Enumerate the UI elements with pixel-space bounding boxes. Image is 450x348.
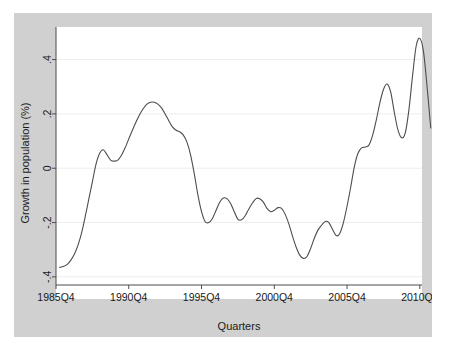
x-tick-label: 2005Q4 xyxy=(328,291,366,303)
plot-background xyxy=(56,27,422,299)
y-axis-title: Growth in population (%) xyxy=(19,102,31,223)
y-tick-label: -.2 xyxy=(41,216,53,228)
y-axis-tick-labels: .4.20-.2-.4 xyxy=(41,55,53,283)
y-tick-label: .2 xyxy=(41,109,53,118)
y-tick-label: -.4 xyxy=(41,271,53,283)
x-tick-label: 1995Q4 xyxy=(183,291,221,303)
line-chart-svg: .4.20-.2-.4 1985Q41990Q41995Q42000Q42005… xyxy=(14,13,432,337)
x-tick-label: 2000Q4 xyxy=(256,291,294,303)
graph-region: .4.20-.2-.4 1985Q41990Q41995Q42000Q42005… xyxy=(14,13,432,337)
x-axis-title: Quarters xyxy=(218,320,261,332)
y-tick-label: .4 xyxy=(41,55,53,64)
x-tick-label: 1985Q4 xyxy=(37,291,75,303)
chart-figure: .4.20-.2-.4 1985Q41990Q41995Q42000Q42005… xyxy=(0,0,450,348)
x-tick-label: 2010Q4 xyxy=(401,291,432,303)
y-tick-label: 0 xyxy=(41,165,53,171)
x-tick-label: 1990Q4 xyxy=(110,291,148,303)
